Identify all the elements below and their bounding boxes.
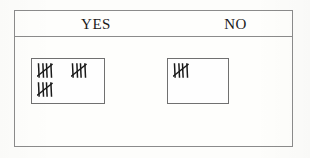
tally-row [37,81,102,100]
tally-rows-no [173,62,226,101]
tally-group-of-5 [71,62,93,79]
outer-table-frame: YES NO [14,10,293,147]
tally-row [173,62,226,81]
tally-group-of-5 [37,81,59,98]
tally-rows-yes [37,62,102,101]
tally-group-of-5 [173,62,195,79]
column-header-yes: YES [15,11,177,37]
tally-chart-screenshot: YES NO [0,0,310,158]
tally-box-no [167,58,229,104]
table-header-row: YES NO [15,11,292,37]
tally-box-yes [31,58,105,104]
table-body-row [15,37,292,147]
column-header-no: NO [177,11,294,37]
tally-row [37,62,102,81]
tally-group-of-5 [37,62,59,79]
